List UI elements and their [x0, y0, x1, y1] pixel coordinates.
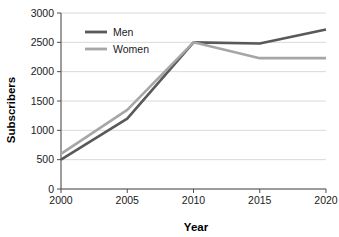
chart-canvas: 050010001500200025003000 200020052010201…: [0, 0, 339, 237]
x-tick-label: 2000: [49, 194, 73, 206]
x-tick-label: 2015: [248, 194, 272, 206]
y-tick-label: 500: [36, 153, 54, 165]
x-tick-label: 2010: [182, 194, 206, 206]
y-tick-label: 1500: [31, 95, 55, 107]
legend-label-women: Women: [113, 43, 149, 55]
line-chart: 050010001500200025003000 200020052010201…: [0, 0, 339, 237]
x-tick-label: 2020: [314, 194, 338, 206]
x-tick-label: 2005: [116, 194, 140, 206]
legend-label-men: Men: [113, 26, 134, 38]
y-tick-label: 2000: [31, 65, 55, 77]
y-axis-title: Subscribers: [5, 77, 17, 143]
y-tick-label: 0: [48, 183, 54, 195]
x-axis-title: Year: [184, 221, 209, 233]
y-tick-label: 3000: [31, 7, 55, 19]
y-tick-label: 2500: [31, 36, 55, 48]
y-tick-label: 1000: [31, 124, 55, 136]
